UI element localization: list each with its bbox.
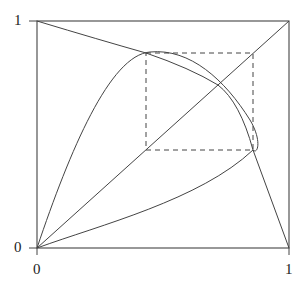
x-label-1: 1 — [285, 262, 293, 277]
identity-line — [37, 21, 289, 248]
y-label-0: 0 — [14, 240, 22, 255]
y-label-1: 1 — [14, 13, 22, 28]
x-label-0: 0 — [33, 262, 41, 277]
cobweb-diagram — [0, 0, 306, 291]
inverse-curve-lower — [37, 150, 253, 248]
